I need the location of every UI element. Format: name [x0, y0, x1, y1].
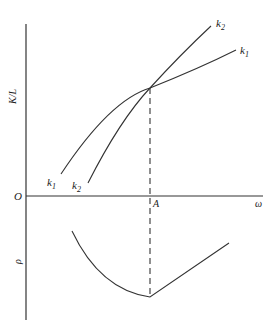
curve-k1	[61, 50, 236, 174]
label-k1-bottom-sub: 1	[52, 182, 56, 191]
diagram: K/L ρ O A ω k2 k1 k1 k2	[0, 0, 279, 334]
label-k1-top-sub: 1	[245, 50, 249, 59]
label-k2-top-sub: 2	[221, 23, 225, 32]
origin-label: O	[14, 191, 22, 202]
diagram-lines	[0, 0, 279, 334]
label-k1-top: k1	[240, 45, 249, 56]
label-k2-bottom-sub: 2	[77, 185, 81, 194]
label-k2-bottom: k2	[72, 180, 81, 191]
y-axis-upper-label: K/L	[8, 89, 18, 104]
label-k1-bottom: k1	[47, 177, 56, 188]
point-label-A: A	[153, 199, 159, 209]
label-k2-top: k2	[216, 18, 225, 29]
y-axis-lower-label: ρ	[13, 259, 23, 264]
x-axis-label: ω	[255, 199, 262, 209]
